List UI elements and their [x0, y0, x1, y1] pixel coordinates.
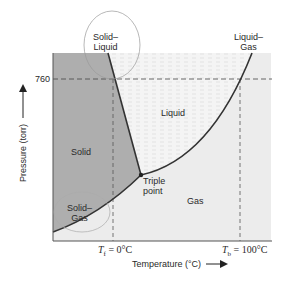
label-line: Liquid [93, 42, 118, 52]
tf-label: Tf = 0°C [98, 245, 132, 259]
label-line: Solid– [93, 32, 118, 42]
label-line: Solid– [67, 203, 92, 213]
label-solid-gas: Solid– Gas [67, 203, 92, 223]
label-gas: Gas [187, 196, 204, 206]
label-liquid-gas: Liquid– Gas [234, 32, 263, 52]
label-line: Triple [143, 176, 165, 186]
y-axis-label: Pressure (torr) [18, 108, 28, 198]
label-solid: Solid [71, 147, 91, 157]
label-line: Gas [67, 213, 92, 223]
y-axis-arrow-head [19, 84, 27, 92]
tf-value: = 0°C [106, 244, 132, 255]
tb-value: = 100°C [231, 244, 267, 255]
x-axis-arrow-head [220, 260, 228, 268]
tb-label: Tb = 100°C [222, 245, 267, 259]
label-line: point [143, 186, 165, 196]
label-triple-point: Triple point [143, 176, 165, 196]
label-liquid: Liquid [161, 108, 185, 118]
label-line: Liquid– [234, 32, 263, 42]
y-tick-760: 760 [35, 74, 50, 84]
label-line: Gas [234, 42, 263, 52]
x-axis-label: Temperature (°C) [132, 259, 201, 269]
label-solid-liquid: Solid– Liquid [93, 32, 118, 52]
